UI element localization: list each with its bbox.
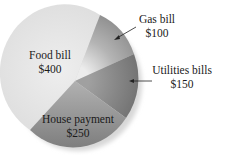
house-payment-value: $250: [36, 126, 120, 140]
food-bill-value: $400: [22, 62, 78, 76]
food-bill-label: Food bill $400: [22, 48, 78, 76]
utilities-bills-label: Utilities bills $150: [146, 63, 218, 91]
utilities-bills-value: $150: [146, 77, 218, 91]
gas-bill-name: Gas bill: [132, 12, 182, 26]
gas-bill-value: $100: [132, 26, 182, 40]
house-payment-name: House payment: [36, 112, 120, 126]
food-bill-name: Food bill: [22, 48, 78, 62]
house-payment-label: House payment $250: [36, 112, 120, 140]
utilities-bills-name: Utilities bills: [146, 63, 218, 77]
gas-bill-label: Gas bill $100: [132, 12, 182, 40]
